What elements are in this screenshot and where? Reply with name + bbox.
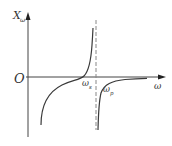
series-resonance-label: ω <box>82 78 89 88</box>
y-axis-arrow-icon <box>26 12 31 20</box>
parallel-resonance-label: ω <box>103 84 110 94</box>
parallel-resonance-subscript: p <box>110 90 114 97</box>
series-resonance-subscript: s <box>89 84 92 90</box>
reactance-diagram: X ω O ω ω s ω p <box>0 0 172 146</box>
y-axis-subscript: ω <box>20 16 26 24</box>
x-axis-arrow-icon <box>158 75 166 80</box>
x-axis-label: ω <box>154 81 162 91</box>
origin-label: O <box>14 71 25 86</box>
